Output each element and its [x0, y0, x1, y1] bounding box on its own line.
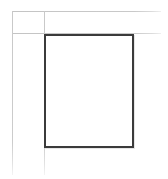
guide-line-left-margin — [12, 11, 13, 175]
page-frame[interactable] — [44, 34, 134, 148]
diagram-canvas — [0, 0, 168, 179]
guide-line-top-margin — [12, 11, 161, 12]
